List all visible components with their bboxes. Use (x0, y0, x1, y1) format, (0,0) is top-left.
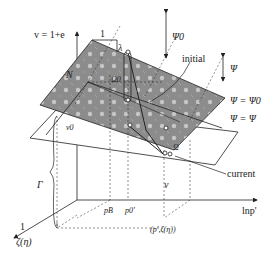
lnp-axis-label: lnp' (242, 205, 257, 216)
p0-label: p0' (124, 206, 135, 215)
slope-run-label: 1 (100, 28, 105, 39)
zeta-axis-label: ζ(η) (16, 236, 32, 248)
current-label: current (227, 168, 256, 179)
critical-state-diagram: v = 1+e lnp' ζ(η) 1 1 λ N Ψ0 Ψ initial c… (0, 0, 279, 261)
psi0-label: Ψ0 (172, 31, 184, 42)
plane-psi0-label: Ψ = Ψ0 (230, 95, 261, 106)
n-label: N (65, 69, 74, 80)
zeta-axis (14, 200, 77, 238)
zeta-unit-label: 1 (20, 221, 25, 232)
gamma-label: Γ (36, 179, 43, 190)
plane-psi-label: Ψ = Ψ (230, 113, 257, 124)
psi-label: Ψ (230, 63, 238, 74)
v0-label: v0 (66, 123, 74, 132)
omega0-label: Ω0 (111, 75, 121, 84)
omega-label: Ω (173, 143, 179, 152)
v-axis-label: v = 1+e (34, 29, 65, 40)
v-label: v (164, 179, 169, 190)
point-label: (p',ζ(η)) (150, 225, 176, 234)
initial-label: initial (182, 53, 206, 64)
pB-label: pB (103, 206, 113, 215)
lambda-label: λ (117, 42, 123, 53)
